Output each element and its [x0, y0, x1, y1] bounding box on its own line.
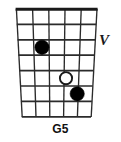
chord-diagram-widget: V G5: [0, 0, 121, 142]
finger-dot-open: [60, 72, 72, 84]
chord-name-label: G5: [0, 123, 121, 136]
fret-position-marker: V: [99, 33, 109, 48]
finger-dot-filled-root: [35, 40, 49, 54]
fret-lines: [17, 24, 96, 116]
finger-dot-filled-fifth: [70, 87, 84, 101]
fretboard-graphic: [0, 0, 121, 142]
